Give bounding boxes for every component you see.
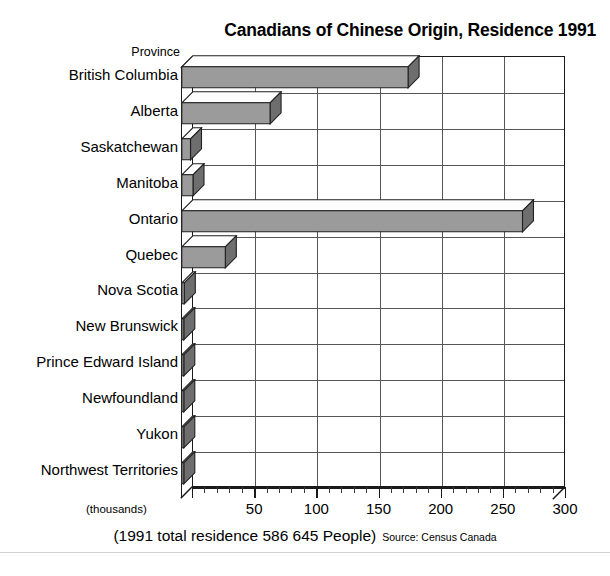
x-axis-minor-tick [428,487,429,493]
x-axis-minor-tick [515,487,516,493]
x-axis-minor-tick [217,487,218,493]
x-axis-tick-label: 300 [552,500,577,517]
x-axis-minor-tick [291,487,292,493]
chart-figure: Canadians of Chinese Origin, Residence 1… [0,0,610,576]
footer: (1991 total residence 586 645 People)Sou… [0,527,610,545]
bar-3d-shape [181,451,198,487]
x-axis-major-tick [441,487,442,498]
bar-3d-shape [181,271,198,307]
x-axis-tick-label: 250 [490,500,515,517]
y-axis-tick-label: Yukon [0,425,178,442]
x-axis-major-tick [316,487,317,498]
bar-3d-shape [181,307,198,343]
y-axis-tick-label: Quebec [0,245,178,262]
x-axis-minor-tick [416,487,417,493]
x-axis-minor-tick [267,487,268,493]
y-axis-tick-label: Manitoba [0,173,178,190]
y-axis-tick-label: New Brunswick [0,317,178,334]
x-axis-tick-label: 150 [366,500,391,517]
y-axis-tick-label: Nova Scotia [0,281,178,298]
bar-3d-shape [181,235,240,271]
x-axis-minor-tick [341,487,342,493]
x-axis-minor-tick [528,487,529,493]
x-axis-minor-tick [304,487,305,493]
bar-3d-shape [181,55,422,91]
x-axis-tick-label: 200 [428,500,453,517]
bar-3d-shape [181,379,198,415]
y-axis-tick-label: British Columbia [0,65,178,82]
bar-3d-shape [181,163,207,199]
x-axis-unit-label: (thousands) [86,503,147,515]
x-axis-minor-tick [453,487,454,493]
y-axis-tick-label: Northwest Territories [0,461,178,478]
y-axis-tick-label: Alberta [0,101,178,118]
page-title: Canadians of Chinese Origin, Residence 1… [0,20,596,41]
y-axis-tick-labels: British ColumbiaAlbertaSaskatchewanManit… [0,56,182,488]
x-axis-minor-tick [229,487,230,493]
x-axis-minor-tick [204,487,205,493]
x-axis-minor-tick [329,487,330,493]
bar-3d-shape [181,127,205,163]
x-axis-tick-label: 100 [304,500,329,517]
x-axis-major-tick [503,487,504,498]
bar-3d-shape [181,343,198,379]
x-axis-minor-tick [540,487,541,493]
footer-total-text: (1991 total residence 586 645 People) [113,527,376,544]
y-axis-tick-label: Saskatchewan [0,137,178,154]
x-axis-minor-tick [490,487,491,493]
bar-3d-shape [181,199,537,235]
x-axis-tick-label: 50 [246,500,263,517]
y-axis-tick-label: Newfoundland [0,389,178,406]
x-axis-ruler [192,487,566,499]
x-axis-major-tick [565,487,566,498]
x-axis-minor-tick [478,487,479,493]
x-axis-minor-tick [553,487,554,493]
x-axis-major-tick [254,487,255,498]
x-axis-minor-tick [466,487,467,493]
bar-3d-shape [181,91,284,127]
y-axis-tick-label: Ontario [0,209,178,226]
bar-3d-shape [181,415,198,451]
y-axis-tick-label: Prince Edward Island [0,353,178,370]
x-axis-minor-tick [354,487,355,493]
footer-source-text: Source: Census Canada [382,531,496,543]
x-axis-minor-tick [366,487,367,493]
x-axis-major-tick [379,487,380,498]
x-axis-minor-tick [391,487,392,493]
x-axis-minor-tick [242,487,243,493]
x-axis-minor-tick [279,487,280,493]
x-axis-major-tick [192,487,193,498]
footer-divider [0,552,610,553]
bars-layer [192,56,565,487]
x-axis-minor-tick [403,487,404,493]
